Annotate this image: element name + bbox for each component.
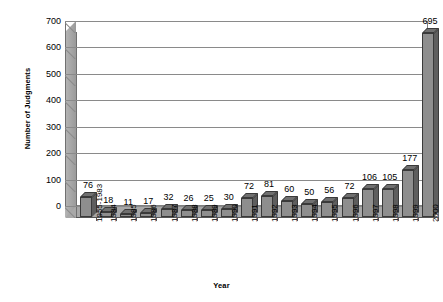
x-axis-tick <box>177 218 178 221</box>
x-axis-tick <box>317 218 318 221</box>
x-axis-tick <box>136 218 137 221</box>
bar-chart: 0100200300400500600700 76181117322625307… <box>0 0 443 302</box>
y-axis-title: Number of Judgments <box>23 44 32 174</box>
x-axis-title: Year <box>0 281 443 290</box>
x-axis-tick <box>277 218 278 221</box>
bar <box>422 33 434 217</box>
x-category-label: 1994 <box>311 204 319 222</box>
bar-side-face <box>434 28 439 217</box>
bar-value-label: 177 <box>395 154 425 163</box>
x-axis-tick <box>156 218 157 221</box>
x-axis-tick <box>96 218 97 221</box>
x-axis-tick <box>116 218 117 221</box>
x-axis-tick <box>337 218 338 221</box>
x-category-label: 1986 <box>150 204 158 222</box>
x-axis-tick <box>297 218 298 221</box>
x-axis-tick <box>358 218 359 221</box>
x-axis-tick <box>217 218 218 221</box>
x-axis-tick <box>398 218 399 221</box>
bar-series <box>0 0 443 302</box>
x-axis-tick <box>378 218 379 221</box>
x-axis-tick <box>438 218 439 221</box>
x-axis-tick <box>197 218 198 221</box>
bar-front-face <box>80 197 92 217</box>
x-category-label: 1985 <box>130 204 138 222</box>
bar-value-label: 695 <box>415 17 443 26</box>
x-axis-tick <box>237 218 238 221</box>
bar <box>80 197 92 217</box>
bar-value-label: 105 <box>375 173 405 182</box>
bar-front-face <box>422 33 434 217</box>
bar-value-label: 30 <box>214 193 244 202</box>
x-axis-tick <box>257 218 258 221</box>
x-axis-tick <box>418 218 419 221</box>
x-category-label: 1955-1983 <box>95 176 104 222</box>
bar-value-label: 72 <box>335 182 365 191</box>
x-category-label: 1995 <box>331 204 339 222</box>
